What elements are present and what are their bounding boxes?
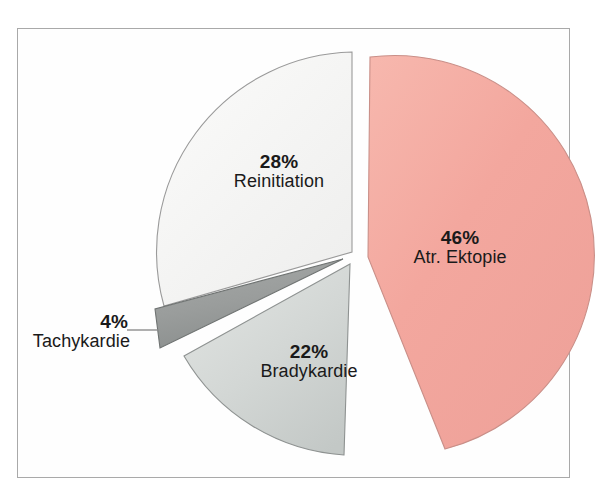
slice-name-tachykardie: Tachykardie [10,332,130,351]
slice-name-reinitiation: Reinitiation [196,172,362,191]
slice-name-bradykardie: Bradykardie [232,362,386,381]
slice-name-atr-ektopie: Atr. Ektopie [392,248,528,267]
slice-percent-atr-ektopie: 46% [392,228,528,248]
slice-label-reinitiation: 28% Reinitiation [196,152,362,191]
slice-label-atr-ektopie: 46% Atr. Ektopie [392,228,528,267]
slice-label-tachykardie: 4% Tachykardie [10,312,130,351]
slice-percent-tachykardie: 4% [10,312,130,332]
slice-percent-bradykardie: 22% [232,342,386,362]
pie-chart-figure: 46% Atr. Ektopie 28% Reinitiation 22% Br… [0,0,596,496]
slice-label-bradykardie: 22% Bradykardie [232,342,386,381]
slice-percent-reinitiation: 28% [196,152,362,172]
